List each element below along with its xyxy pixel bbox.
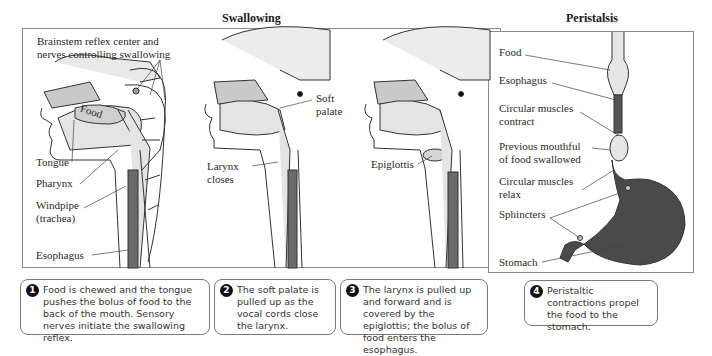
label-muscles-contract: Circular muscles contract [499, 102, 573, 128]
label-pharynx: Pharynx [36, 177, 73, 190]
label-sphincters: Sphincters [499, 208, 545, 221]
caption-text: Peristaltic contractions propel the food… [547, 285, 639, 332]
caption-text: The soft palate is pulled up as the voca… [237, 284, 319, 331]
label-tongue: Tongue [36, 156, 69, 169]
caption-text: The larynx is pulled up and forward and … [363, 284, 471, 355]
step-number-badge: 3 [346, 284, 359, 297]
caption-step-4: 4 Peristaltic contractions propel the fo… [524, 280, 658, 326]
head-stage-2 [205, 27, 330, 268]
caption-text: Food is chewed and the tongue pushes the… [43, 284, 192, 343]
label-larynx-closes: Larynx closes [207, 160, 239, 186]
step-number-badge: 4 [530, 285, 543, 298]
caption-step-2: 2 The soft palate is pulled up as the vo… [214, 279, 336, 335]
label-stomach: Stomach [499, 256, 538, 269]
caption-step-1: 1 Food is chewed and the tongue pushes t… [20, 279, 210, 335]
caption-step-3: 3 The larynx is pulled up and forward an… [340, 279, 488, 335]
label-esophagus-peristalsis: Esophagus [499, 74, 547, 87]
label-previous-mouthful: Previous mouthful of food swallowed [499, 140, 581, 166]
step-number-badge: 2 [220, 284, 233, 297]
label-epiglottis: Epiglottis [371, 158, 414, 171]
label-soft-palate: Soft palate [316, 92, 342, 118]
head-stage-3 [365, 27, 490, 268]
label-food: Food [499, 46, 522, 59]
label-brainstem: Brainstem reflex center and nerves contr… [37, 35, 170, 61]
label-esophagus: Esophagus [36, 249, 84, 262]
label-windpipe: Windpipe (trachea) [36, 199, 79, 225]
label-muscles-relax: Circular muscles relax [499, 175, 573, 201]
step-number-badge: 1 [26, 284, 39, 297]
